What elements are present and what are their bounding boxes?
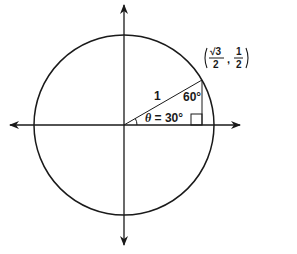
x-numerator: √3: [210, 46, 221, 57]
theta-label: θ = 30°: [145, 111, 183, 125]
y-numerator: 1: [236, 46, 242, 57]
theta-arc: [135, 119, 137, 126]
right-angle-marker: [191, 114, 202, 125]
unit-circle-diagram: 1 60° θ = 30° √3 2 , 1 2: [0, 0, 297, 254]
hypotenuse-label: 1: [154, 89, 161, 103]
x-denominator: 2: [213, 59, 219, 70]
theta-value: = 30°: [151, 111, 183, 125]
top-angle-label: 60°: [183, 90, 201, 104]
y-denominator: 2: [236, 59, 242, 70]
point-coordinate-label: √3 2 , 1 2: [205, 46, 248, 70]
separator-comma: ,: [227, 53, 230, 65]
